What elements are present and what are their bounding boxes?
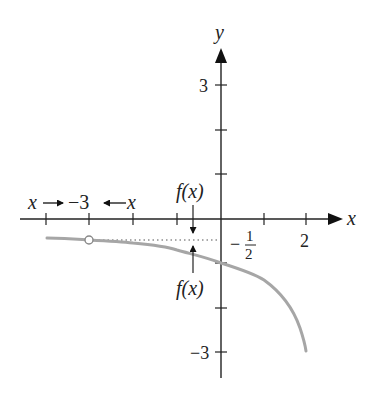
graph-figure: x −3 x f(x) f(x) − 1 2 2 3 −3 y x — [0, 0, 371, 405]
fx-bottom-label: f(x) — [176, 277, 204, 300]
y-tick-label-3: 3 — [199, 76, 208, 96]
x-tick-label-2: 2 — [300, 231, 309, 251]
limit-numerator: 1 — [246, 228, 254, 244]
x-axis-arrow-icon — [328, 213, 343, 225]
y-axis — [215, 48, 227, 378]
approach-x-right-label: x — [126, 191, 136, 213]
limit-minus-sign: − — [230, 234, 240, 254]
y-axis-label: y — [213, 21, 224, 44]
fx-top-label: f(x) — [176, 180, 204, 203]
limit-denominator: 2 — [245, 246, 253, 262]
open-point-marker — [85, 236, 93, 244]
y-tick-label-neg3: −3 — [190, 343, 209, 363]
approach-value-label: −3 — [68, 191, 89, 213]
y-axis-arrow-icon — [215, 48, 227, 63]
x-axis-label: x — [346, 207, 356, 229]
approach-x-left-label: x — [27, 191, 37, 213]
x-axis — [20, 213, 343, 225]
plot-canvas: x −3 x f(x) f(x) − 1 2 2 3 −3 y x — [0, 0, 371, 405]
